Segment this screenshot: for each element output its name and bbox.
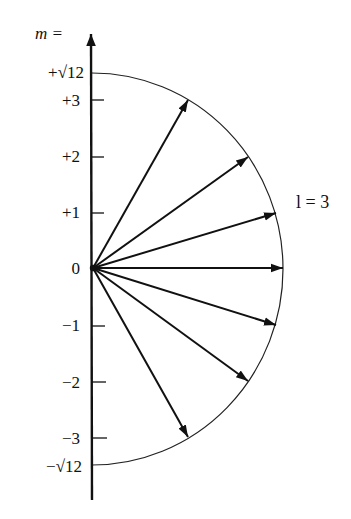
axis-label-m: m = — [35, 25, 63, 42]
angular-momentum-vectors — [93, 100, 283, 437]
label-minus-2: −2 — [0, 374, 80, 391]
label-zero: 0 — [0, 260, 80, 277]
label-plus-sqrt12: +√12 — [0, 64, 84, 81]
origin-point — [90, 265, 96, 271]
label-plus-1: +1 — [0, 204, 80, 221]
vector-m-plus-2 — [93, 157, 248, 268]
label-plus-2: +2 — [0, 148, 80, 165]
label-minus-1: −1 — [0, 317, 80, 334]
label-plus-3: +3 — [0, 92, 80, 109]
label-minus-3: −3 — [0, 430, 80, 447]
vector-m-minus-2 — [93, 268, 248, 381]
label-minus-sqrt12: −√12 — [0, 458, 82, 475]
orbit-label-l: l = 3 — [296, 193, 329, 211]
